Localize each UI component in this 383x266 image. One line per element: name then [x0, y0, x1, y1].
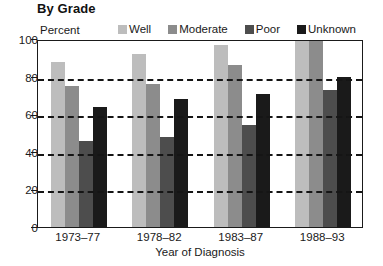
bar	[79, 141, 93, 227]
plot-area	[37, 40, 363, 228]
x-axis-tick-label: 1973–77	[55, 231, 100, 243]
legend-label: Unknown	[308, 24, 356, 36]
bar	[132, 54, 146, 227]
x-axis-tick-label: 1978–82	[137, 231, 182, 243]
bar	[228, 65, 242, 227]
chart-figure: By Grade Percent WellModeratePoorUnknown…	[0, 0, 383, 266]
x-axis-title: Year of Diagnosis	[155, 246, 245, 258]
bar	[214, 45, 228, 227]
y-axis-tick-label: 100	[10, 34, 38, 46]
y-axis-tick-label: 0	[10, 222, 38, 234]
y-axis-tick-label: 20	[10, 184, 38, 196]
legend-label: Poor	[256, 24, 280, 36]
y-axis-tick-label: 40	[10, 147, 38, 159]
x-axis-tick-label: 1988–93	[300, 231, 345, 243]
bars-layer	[38, 41, 362, 227]
bar	[51, 62, 65, 227]
bar	[160, 137, 174, 227]
legend-item-well: Well	[118, 24, 151, 36]
legend-label: Moderate	[179, 24, 228, 36]
bar	[65, 86, 79, 227]
y-axis-title: Percent	[40, 24, 80, 36]
bar	[295, 40, 309, 227]
bar	[146, 84, 160, 227]
chart-title: By Grade	[37, 1, 96, 16]
bar	[93, 107, 107, 227]
y-axis-tick-label: 60	[10, 109, 38, 121]
bar	[242, 125, 256, 227]
legend-swatch-icon	[168, 25, 177, 34]
bar	[323, 90, 337, 227]
legend-label: Well	[129, 24, 151, 36]
bar	[174, 99, 188, 227]
bar	[309, 40, 323, 227]
bar	[256, 94, 270, 227]
legend-swatch-icon	[245, 25, 254, 34]
legend-swatch-icon	[297, 25, 306, 34]
legend-item-unknown: Unknown	[297, 24, 356, 36]
legend-swatch-icon	[118, 25, 127, 34]
bar	[337, 77, 351, 227]
legend-item-moderate: Moderate	[168, 24, 228, 36]
y-axis-tick-label: 80	[10, 72, 38, 84]
legend-item-poor: Poor	[245, 24, 280, 36]
chart-legend: WellModeratePoorUnknown	[118, 23, 356, 36]
x-axis-tick-label: 1983–87	[218, 231, 263, 243]
